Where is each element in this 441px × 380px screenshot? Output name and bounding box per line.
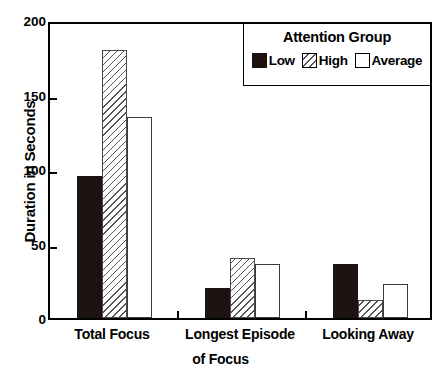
y-tick-label: 0 [12, 313, 46, 327]
legend-swatch-average-icon [355, 53, 370, 68]
x-tick-mark [177, 311, 179, 318]
bar-high [230, 258, 255, 318]
y-axis-tick-labels: 050100150200 [10, 0, 46, 380]
y-tick-label: 50 [12, 239, 46, 253]
bar-average [127, 117, 152, 318]
bar-high [358, 300, 383, 318]
bar-low [205, 288, 230, 318]
y-tick-label: 200 [12, 15, 46, 29]
y-tick-label: 150 [12, 90, 46, 104]
x-tick-mark [305, 311, 307, 318]
y-tick-label: 100 [12, 164, 46, 178]
legend-swatch-high-icon [302, 53, 317, 68]
legend-label-average: Average [372, 53, 423, 68]
x-category-label: Looking Away [284, 326, 441, 342]
legend-entry-low: Low [252, 53, 295, 68]
bar-average [383, 284, 408, 318]
x-axis-title: of Focus [0, 351, 441, 367]
bar-high [102, 50, 127, 318]
legend-swatch-low-icon [252, 53, 267, 68]
legend-title: Attention Group [244, 29, 430, 45]
legend-entry-average: Average [355, 53, 423, 68]
y-tick-mark [50, 98, 57, 100]
bar-chart: Duration in Seconds 050100150200 Total F… [0, 0, 441, 380]
y-tick-mark [50, 247, 57, 249]
legend-label-low: Low [269, 53, 295, 68]
bar-low [77, 176, 102, 318]
legend: Attention Group Low High Average [243, 23, 431, 86]
bar-low [333, 264, 358, 318]
legend-entry-high: High [302, 53, 348, 68]
legend-entries: Low High Average [244, 53, 430, 68]
y-tick-mark [50, 172, 57, 174]
legend-label-high: High [319, 53, 348, 68]
bar-average [255, 264, 280, 318]
